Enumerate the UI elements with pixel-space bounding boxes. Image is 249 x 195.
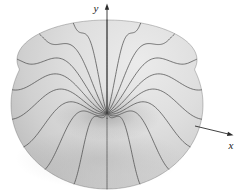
- figure-3d-surface: y x: [0, 0, 249, 195]
- x-axis-arrowhead: [227, 132, 234, 136]
- y-axis-arrowhead: [105, 4, 109, 10]
- belly-shading: [15, 129, 183, 189]
- x-axis-label: x: [228, 139, 234, 151]
- surface-plot: y x: [0, 0, 249, 195]
- y-axis-label: y: [93, 2, 99, 14]
- x-axis-line: [195, 126, 229, 134]
